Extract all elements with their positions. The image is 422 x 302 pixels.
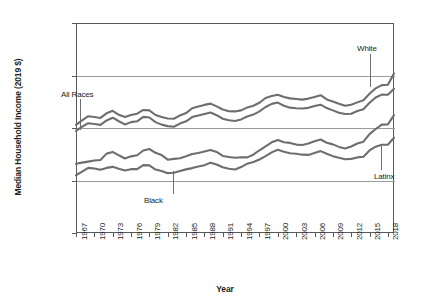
leader-line-latinx [381, 146, 382, 170]
x-tick-mark [315, 233, 316, 237]
x-tick-label: 1997 [263, 223, 272, 240]
x-tick-mark [388, 233, 389, 237]
x-tick-label: 2003 [300, 223, 309, 240]
x-tick-mark [370, 233, 371, 237]
x-tick-label: 1982 [171, 223, 180, 240]
annotation-black: Black [144, 196, 163, 205]
annotation-all-races: All Races [61, 90, 93, 99]
x-tick-mark [168, 233, 169, 237]
x-tick-label: 1991 [226, 223, 235, 240]
x-tick-label: 1976 [135, 223, 144, 240]
y-axis-title: Median Household Income (2019 $) [13, 17, 23, 237]
gridline [77, 181, 395, 182]
leader-line-all-races [80, 99, 81, 130]
x-tick-label: 2018 [391, 223, 400, 240]
gridline [77, 128, 395, 129]
leader-line-black [173, 171, 174, 194]
x-tick-label: 2006 [318, 223, 327, 240]
x-tick-label: 1970 [98, 223, 107, 240]
plot-area [76, 23, 394, 233]
annotation-white: White [357, 44, 377, 53]
gridline [77, 76, 395, 77]
x-tick-mark [296, 233, 297, 237]
x-tick-mark [76, 233, 77, 237]
annotation-latinx: Latinx [374, 172, 394, 181]
x-tick-label: 2015 [373, 223, 382, 240]
x-tick-label: 2012 [355, 223, 364, 240]
x-axis-title-text: Year [216, 284, 234, 294]
x-tick-label: 2009 [336, 223, 345, 240]
chart-figure: Median Household Income (2019 $) 0250005… [0, 0, 422, 302]
x-tick-mark [149, 233, 150, 237]
x-tick-label: 1988 [208, 223, 217, 240]
x-tick-label: 1973 [116, 223, 125, 240]
x-tick-mark [351, 233, 352, 237]
x-tick-label: 1985 [190, 223, 199, 240]
x-tick-mark [94, 233, 95, 237]
x-tick-label: 2000 [281, 223, 290, 240]
x-tick-label: 1967 [80, 223, 89, 240]
x-tick-mark [223, 233, 224, 237]
x-tick-mark [186, 233, 187, 237]
x-tick-mark [241, 233, 242, 237]
x-axis-title: Year [0, 284, 422, 294]
x-tick-mark [333, 233, 334, 237]
x-tick-mark [204, 233, 205, 237]
x-tick-mark [131, 233, 132, 237]
x-tick-mark [278, 233, 279, 237]
x-tick-mark [259, 233, 260, 237]
x-tick-label: 1994 [245, 223, 254, 240]
x-tick-label: 1979 [153, 223, 162, 240]
leader-line-white [370, 54, 371, 87]
x-tick-mark [113, 233, 114, 237]
